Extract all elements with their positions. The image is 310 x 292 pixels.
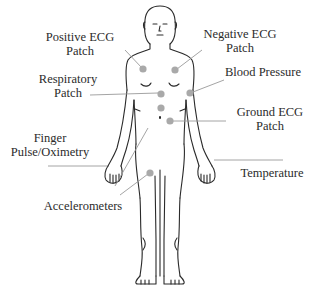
label-line: Respiratory (28, 72, 108, 86)
label-finger: Finger Pulse/Oximetry (0, 131, 100, 159)
label-line: Patch (30, 44, 130, 58)
leader-blood-pressure (193, 80, 224, 92)
label-accelerometers: Accelerometers (40, 199, 126, 213)
label-line: Positive ECG (30, 30, 130, 44)
label-positive-ecg: Positive ECG Patch (30, 30, 130, 58)
label-respiratory: Respiratory Patch (28, 72, 108, 100)
label-line: Patch (230, 119, 310, 133)
label-line: Finger (0, 131, 100, 145)
label-ground-ecg: Ground ECG Patch (230, 105, 310, 133)
label-line: Patch (28, 86, 108, 100)
body-sensor-diagram: Positive ECG Patch Negative ECG Patch Re… (0, 0, 310, 292)
dot-mid-torso (157, 104, 164, 111)
label-line: Pulse/Oximetry (0, 145, 100, 159)
dot-negative-ecg (171, 66, 178, 73)
dot-accelerometer (146, 169, 153, 176)
label-line: Accelerometers (40, 199, 126, 213)
label-line: Patch (190, 41, 290, 55)
label-line: Negative ECG (190, 27, 290, 41)
label-line: Temperature (236, 166, 308, 180)
dot-positive-ecg (139, 65, 146, 72)
dot-respiratory (157, 90, 164, 97)
dot-ground-ecg (166, 117, 173, 124)
leader-accelerometer-thigh (120, 174, 148, 195)
label-blood-pressure: Blood Pressure (216, 65, 310, 79)
label-negative-ecg: Negative ECG Patch (190, 27, 290, 55)
label-line: Ground ECG (230, 105, 310, 119)
label-temperature: Temperature (236, 166, 308, 180)
label-line: Blood Pressure (216, 65, 310, 79)
dot-blood-pressure (186, 89, 193, 96)
